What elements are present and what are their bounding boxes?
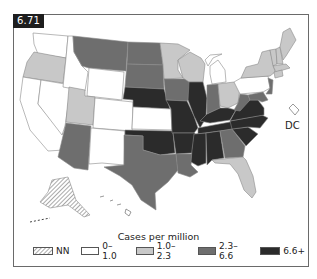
legend-label: 1.0–2.3 xyxy=(157,241,186,261)
state-pa xyxy=(234,76,270,94)
aleutian-islands xyxy=(30,218,50,222)
state-me xyxy=(280,28,296,60)
light-gray-swatch-icon xyxy=(136,247,154,255)
state-ks xyxy=(132,107,172,130)
legend: NN 0–1.0 1.0–2.3 2.3–6.6 6.6+ xyxy=(33,245,317,257)
state-co xyxy=(93,98,133,131)
dc-label: DC xyxy=(285,120,300,131)
legend-item-0-1: 0–1.0 xyxy=(81,241,123,261)
mid-gray-swatch-icon xyxy=(198,247,216,255)
state-sd xyxy=(125,64,164,89)
state-nd xyxy=(127,42,163,65)
state-ms xyxy=(191,133,206,166)
state-ak xyxy=(40,177,90,217)
dark-swatch-icon xyxy=(260,247,280,255)
dc-inset xyxy=(289,104,299,115)
white-swatch-icon xyxy=(81,247,99,255)
legend-label: 2.3–6.6 xyxy=(219,241,248,261)
state-hi xyxy=(100,196,131,216)
legend-label: NN xyxy=(56,246,69,256)
state-mi xyxy=(205,54,226,84)
state-nm xyxy=(89,128,125,165)
state-ny xyxy=(241,50,275,78)
figure-number-badge: 6.71 xyxy=(13,14,44,28)
legend-item-nn: NN xyxy=(33,246,69,256)
state-wy xyxy=(87,68,124,100)
legend-item-6.6-plus: 6.6+ xyxy=(260,246,305,256)
state-fl xyxy=(212,157,256,198)
legend-item-2.3-6.6: 2.3–6.6 xyxy=(198,241,248,261)
legend-label: 0–1.0 xyxy=(102,241,124,261)
legend-item-1-2.3: 1.0–2.3 xyxy=(136,241,186,261)
legend-label: 6.6+ xyxy=(283,246,305,256)
hatch-swatch-icon xyxy=(33,247,53,255)
